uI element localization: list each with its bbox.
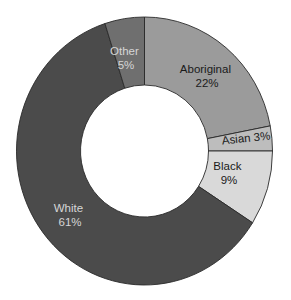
donut-chart: Aboriginal 22% Asian 3% Black 9% White 6… xyxy=(0,0,291,300)
donut-slices xyxy=(16,17,272,285)
